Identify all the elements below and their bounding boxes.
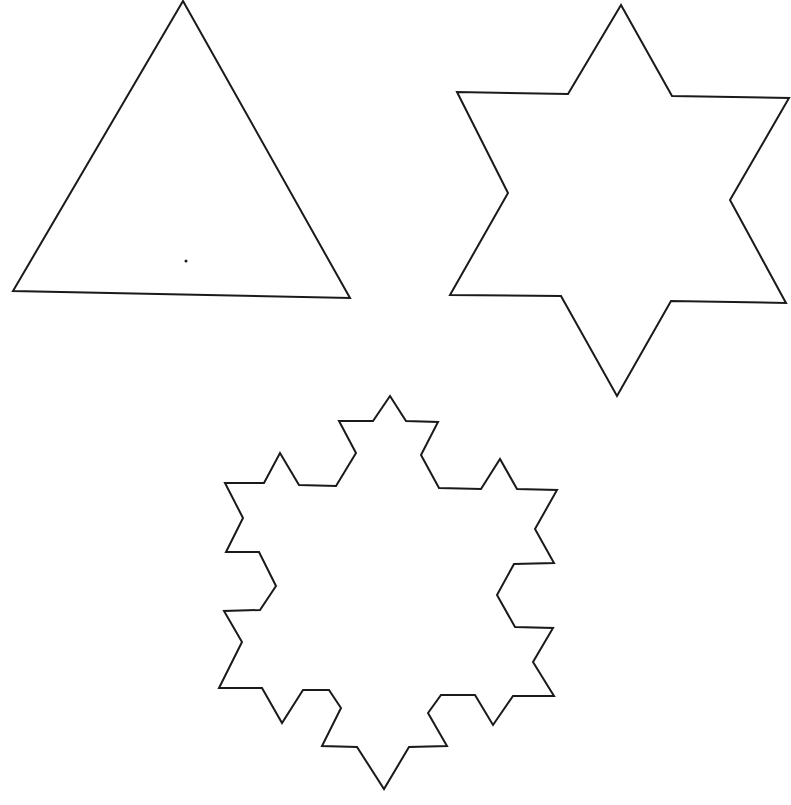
- triangle-shape: [13, 1, 350, 298]
- snowflake-shape: [219, 396, 557, 789]
- koch-snowflake-diagram: [0, 0, 791, 805]
- center-dot: [185, 260, 188, 263]
- star-shape: [450, 5, 789, 396]
